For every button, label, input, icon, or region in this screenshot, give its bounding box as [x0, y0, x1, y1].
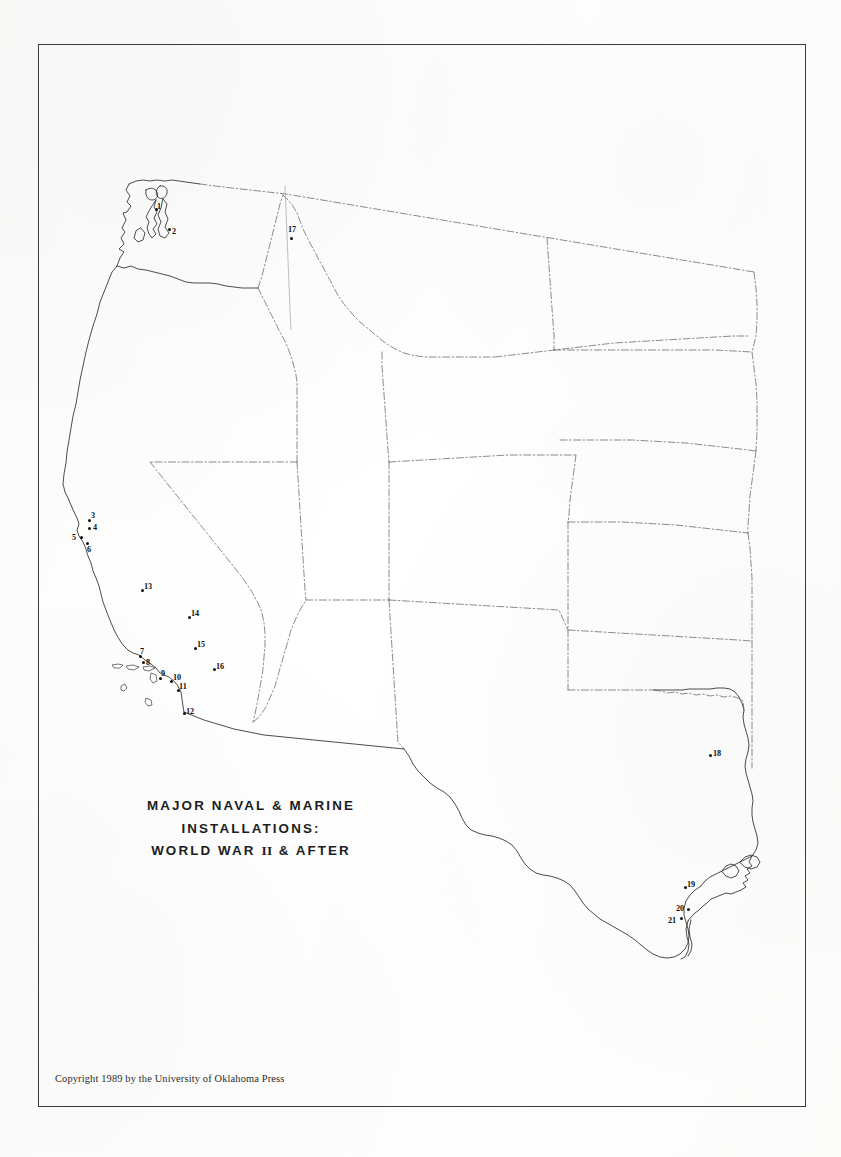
installation-marker-label-14: 14	[191, 610, 199, 618]
installation-marker-dot-2[interactable]	[168, 228, 171, 231]
installation-marker-label-16: 16	[216, 663, 224, 671]
map-title-block: MAJOR NAVAL & MARINE INSTALLATIONS: WORL…	[106, 795, 396, 863]
installation-marker-label-3: 3	[91, 512, 95, 520]
plate-border-frame	[38, 44, 806, 1107]
map-title-line-2: INSTALLATIONS:	[106, 818, 396, 841]
installation-marker-label-15: 15	[197, 641, 205, 649]
installation-marker-label-19: 19	[687, 881, 695, 889]
installation-marker-label-9: 9	[161, 670, 165, 678]
map-title-line-3-prefix: WORLD WAR	[151, 843, 261, 858]
installation-marker-label-18: 18	[713, 750, 721, 758]
map-plate-page: 123456789101112131415161718192021 MAJOR …	[0, 0, 841, 1157]
map-title-line-1: MAJOR NAVAL & MARINE	[106, 795, 396, 818]
installation-marker-dot-18[interactable]	[709, 754, 712, 757]
installation-marker-dot-8[interactable]	[142, 661, 145, 664]
installation-marker-label-7: 7	[140, 648, 144, 656]
installation-marker-dot-17[interactable]	[290, 237, 293, 240]
map-title-line-3-suffix: & AFTER	[273, 843, 351, 858]
installation-marker-label-13: 13	[144, 583, 152, 591]
installation-marker-label-11: 11	[179, 683, 187, 691]
installation-marker-label-12: 12	[186, 708, 194, 716]
map-title-roman-numeral: II	[261, 843, 272, 858]
installation-marker-dot-5[interactable]	[80, 536, 83, 539]
installation-marker-label-5: 5	[72, 534, 76, 542]
installation-marker-label-8: 8	[146, 659, 150, 667]
installation-marker-label-21: 21	[668, 917, 676, 925]
copyright-notice: Copyright 1989 by the University of Okla…	[55, 1073, 284, 1084]
installation-marker-dot-21[interactable]	[680, 917, 683, 920]
installation-marker-label-17: 17	[288, 226, 296, 234]
installation-marker-dot-20[interactable]	[687, 908, 690, 911]
installation-marker-label-20: 20	[676, 905, 684, 913]
installation-marker-label-1: 1	[157, 203, 161, 211]
installation-marker-label-2: 2	[172, 228, 176, 236]
installation-marker-label-6: 6	[87, 546, 91, 554]
map-title-line-3: WORLD WAR II & AFTER	[106, 840, 396, 863]
installation-marker-label-10: 10	[173, 674, 181, 682]
installation-marker-dot-4[interactable]	[88, 527, 91, 530]
installation-marker-label-4: 4	[93, 524, 97, 532]
